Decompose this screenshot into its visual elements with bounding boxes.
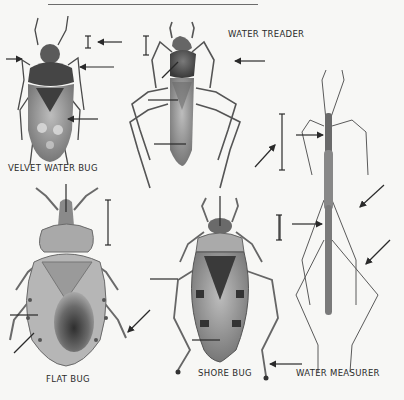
shore-bug-body [176, 196, 269, 381]
field-guide-plate: VELVET WATER BUG WATER TREADER FLAT BUG … [0, 0, 404, 400]
water-treader-pointers [143, 36, 275, 167]
velvet-water-bug-body [28, 44, 74, 162]
water-measurer-figure [296, 70, 378, 372]
label-flat-bug: FLAT BUG [46, 374, 90, 384]
label-water-measurer: WATER MEASURER [296, 368, 380, 378]
label-shore-bug: SHORE BUG [198, 368, 252, 378]
water-treader-body [170, 36, 196, 166]
water-measurer-body [324, 113, 333, 315]
flat-bug-body [26, 184, 108, 366]
label-velvet-water-bug: VELVET WATER BUG [8, 163, 98, 173]
label-water-treader: WATER TREADER [228, 29, 304, 39]
insect-illustrations [0, 0, 404, 400]
